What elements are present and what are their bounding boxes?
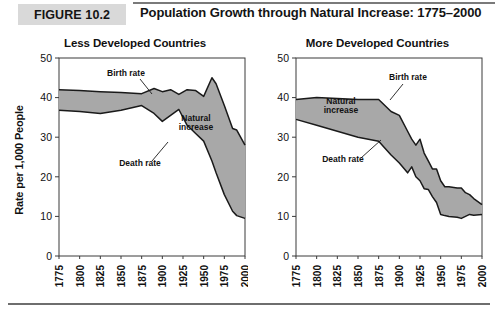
plot-more-developed: 0102030405017751800182518501875190019251… <box>248 34 495 299</box>
plot-less-developed: 0102030405017751800182518501875190019251… <box>0 34 248 299</box>
x-tick-label: 1975 <box>219 265 230 288</box>
x-tick-label: 1825 <box>95 265 106 288</box>
x-tick-label: 1975 <box>456 265 467 288</box>
figure-number-badge: FIGURE 10.2 <box>18 4 126 25</box>
x-tick-label: 1875 <box>374 265 385 288</box>
footer-divider <box>8 303 490 305</box>
x-tick-label: 2000 <box>240 265 248 288</box>
y-tick-label: 50 <box>277 52 289 64</box>
x-tick-label: 1875 <box>137 265 148 288</box>
y-tick-label: 0 <box>283 250 289 262</box>
annotation-death-rate: Death rate <box>322 154 364 164</box>
y-tick-label: 30 <box>277 131 289 143</box>
x-tick-label: 1925 <box>415 265 426 288</box>
figure-header: FIGURE 10.2 Population Growth through Na… <box>0 0 495 34</box>
y-tick-label: 20 <box>277 171 289 183</box>
y-tick-label: 40 <box>277 91 289 103</box>
y-tick-label: 50 <box>40 52 52 64</box>
x-tick-label: 1950 <box>199 265 210 288</box>
annotation-birth-rate: Birth rate <box>389 72 427 82</box>
annotation-natural-increase: increase <box>324 105 359 115</box>
x-tick-label: 1925 <box>178 265 189 288</box>
chart-panel-more-developed: More Developed Countries 010203040501775… <box>248 34 495 299</box>
x-tick-label: 1825 <box>332 265 343 288</box>
y-tick-label: 10 <box>277 210 289 222</box>
x-tick-label: 1850 <box>116 265 127 288</box>
annotation-death-rate: Death rate <box>119 158 161 168</box>
x-tick-label: 1900 <box>394 265 405 288</box>
x-tick-label: 1800 <box>312 265 323 288</box>
y-tick-label: 30 <box>40 131 52 143</box>
x-tick-label: 1900 <box>157 265 168 288</box>
x-tick-label: 1775 <box>54 265 65 288</box>
y-tick-label: 20 <box>40 171 52 183</box>
y-tick-label: 40 <box>40 91 52 103</box>
chart-panel-less-developed: Less Developed Countries Rate per 1,000 … <box>0 34 248 299</box>
annotation-natural-increase: increase <box>179 122 214 132</box>
x-tick-label: 1850 <box>353 265 364 288</box>
y-tick-label: 10 <box>40 210 52 222</box>
x-tick-label: 1775 <box>291 265 302 288</box>
x-tick-label: 1950 <box>436 265 447 288</box>
x-tick-label: 2000 <box>477 265 488 288</box>
figure-title: Population Growth through Natural Increa… <box>140 5 481 20</box>
header-divider <box>133 2 495 4</box>
y-tick-label: 0 <box>46 250 52 262</box>
annotation-birth-rate: Birth rate <box>107 68 145 78</box>
x-tick-label: 1800 <box>75 265 86 288</box>
